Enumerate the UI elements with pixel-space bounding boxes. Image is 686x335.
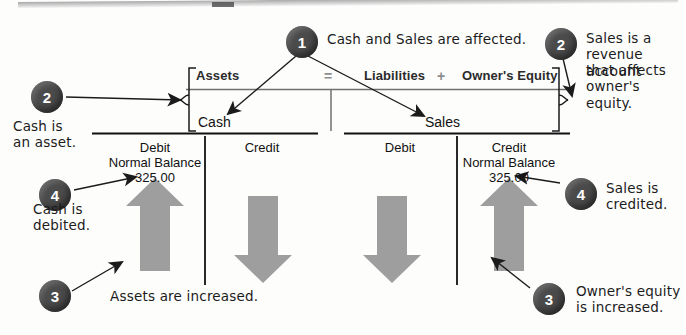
- callout-text-3-right-line-0: Owner's equity: [576, 283, 680, 300]
- callout-text-2-left-line-1: an asset.: [13, 134, 76, 151]
- callout-bubble-2-right[interactable]: 2: [545, 28, 577, 60]
- accounting-equation-diagram: Assets = Liabilities + Owner's Equity Ca…: [0, 0, 686, 335]
- block-arrow-sales-debit-shaft: [377, 196, 407, 258]
- sales-credit-amount: 325.00: [462, 170, 556, 185]
- callout-text-3-right-line-1: is increased.: [576, 299, 663, 316]
- cash-debit-normal-balance-label: Normal Balance: [92, 155, 218, 170]
- block-arrow-cash-debit-shaft: [140, 203, 170, 271]
- equation-term-owners-equity: Owner's Equity: [462, 68, 558, 83]
- equation-equals-sign: =: [324, 68, 332, 84]
- callout-text-2-right-line-0: Sales is a: [586, 30, 652, 47]
- callout-text-2-right-line-2: that affects: [586, 62, 666, 79]
- owners-equity-bracket-nub: [559, 95, 568, 105]
- equation-plus-sign: +: [437, 68, 445, 84]
- callout-bubble-4-right[interactable]: 4: [565, 178, 597, 210]
- equation-term-assets: Assets: [196, 68, 239, 83]
- arrow-callout2-left-to-assets: [66, 97, 180, 100]
- callout-text-2-right-line-3: owner's equity.: [586, 78, 686, 111]
- account-name-cash: Cash: [198, 114, 231, 130]
- assets-bracket-nub: [180, 95, 189, 105]
- callout-text-4-left-line-0: Cash is: [33, 201, 83, 218]
- cash-debit-label: Debit: [108, 140, 202, 155]
- equation-term-liabilities: Liabilities: [364, 68, 425, 83]
- callout-text-1-line-0: Cash and Sales are affected.: [327, 31, 526, 48]
- block-arrow-cash-credit-shaft: [248, 196, 278, 258]
- arrow-callout3-left-to-block-arrow: [72, 262, 122, 291]
- block-arrow-sales-credit-shaft: [494, 203, 524, 271]
- cash-debit-amount: 325.00: [108, 170, 202, 185]
- assets-bracket: [189, 68, 196, 131]
- arrow-callout1-to-sales: [308, 56, 424, 116]
- callout-text-2-left-line-0: Cash is: [13, 118, 63, 135]
- sales-credit-normal-balance-label: Normal Balance: [446, 155, 572, 170]
- cash-credit-label: Credit: [210, 140, 314, 155]
- sales-credit-label: Credit: [462, 140, 556, 155]
- block-arrow-sales-debit-head: [363, 255, 421, 283]
- callout-text-4-left-line-1: debited.: [33, 217, 90, 234]
- sales-debit-label: Debit: [348, 140, 452, 155]
- account-name-sales: Sales: [425, 114, 460, 130]
- block-arrow-cash-credit-head: [234, 255, 292, 283]
- callout-text-4-right-line-1: credited.: [606, 196, 668, 213]
- callout-bubble-3-left[interactable]: 3: [39, 280, 71, 312]
- callout-bubble-2-left[interactable]: 2: [31, 81, 63, 113]
- callout-bubble-3-right[interactable]: 3: [533, 283, 565, 315]
- callout-text-3-left-line-0: Assets are increased.: [110, 288, 258, 305]
- callout-bubble-1[interactable]: 1: [286, 26, 318, 58]
- callout-text-4-right-line-0: Sales is: [606, 180, 659, 197]
- arrow-callout1-to-cash: [228, 56, 296, 114]
